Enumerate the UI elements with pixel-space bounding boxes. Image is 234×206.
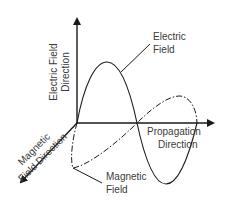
electric-field-leader (121, 44, 150, 72)
svg-text:Field: Field (153, 44, 175, 55)
svg-text:Electric: Electric (153, 31, 186, 42)
svg-text:Direction: Direction (60, 52, 71, 91)
svg-text:Propagation: Propagation (147, 126, 201, 137)
magnetic-field-leader (73, 168, 102, 183)
electric-field-label: Electric Field (153, 31, 186, 55)
em-wave-diagram: Electric Field Direction Magnetic Field … (0, 0, 234, 206)
magnetic-field-direction-label: Magnetic Field Direction (8, 123, 69, 184)
svg-text:Magnetic: Magnetic (106, 171, 147, 182)
magnetic-field-label: Magnetic Field (106, 171, 147, 195)
svg-text:Field: Field (106, 184, 128, 195)
svg-text:Direction: Direction (158, 139, 197, 150)
electric-field-direction-label: Electric Field Direction (48, 43, 71, 100)
svg-text:Electric Field: Electric Field (48, 43, 59, 100)
